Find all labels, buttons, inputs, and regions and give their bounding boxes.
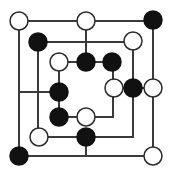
white-piece[interactable] <box>77 108 95 126</box>
game-board <box>0 0 171 174</box>
white-piece[interactable] <box>10 12 28 30</box>
black-piece[interactable] <box>77 128 95 146</box>
white-piece[interactable] <box>105 79 123 97</box>
black-piece[interactable] <box>50 108 68 126</box>
white-piece[interactable] <box>144 79 162 97</box>
white-piece[interactable] <box>77 12 95 30</box>
black-piece[interactable] <box>29 33 47 51</box>
black-piece[interactable] <box>103 53 121 71</box>
white-piece[interactable] <box>30 128 48 146</box>
black-piece[interactable] <box>10 147 28 165</box>
black-piece[interactable] <box>124 79 142 97</box>
black-piece[interactable] <box>144 11 162 29</box>
black-piece[interactable] <box>77 53 95 71</box>
white-piece[interactable] <box>50 53 68 71</box>
white-piece[interactable] <box>144 147 162 165</box>
black-piece[interactable] <box>50 83 68 101</box>
white-piece[interactable] <box>124 32 142 50</box>
